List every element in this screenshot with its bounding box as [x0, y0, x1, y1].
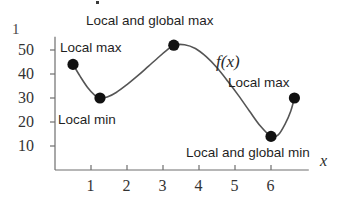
x-tick-label: 1: [87, 178, 95, 194]
annotation-local-and-global-max: Local and global max: [86, 14, 214, 28]
data-point-marker: [289, 92, 300, 103]
data-point-marker: [67, 59, 78, 70]
annotation-local-min: Local min: [58, 113, 116, 127]
x-tick-label: 6: [267, 178, 275, 194]
annotation-local-and-global-min: Local and global min: [186, 146, 310, 160]
y-tick-label: 20: [18, 114, 34, 130]
data-point-marker: [265, 131, 276, 142]
function-name-label: f(x): [216, 53, 240, 70]
x-tick-label: 3: [159, 178, 167, 194]
x-axis-name-label: x: [320, 153, 327, 169]
y-tick-label: 50: [18, 42, 34, 58]
plot-canvas: [0, 0, 348, 202]
x-tick-label: 2: [123, 178, 131, 194]
x-tick-label: 4: [195, 178, 203, 194]
y-tick-label: 30: [18, 90, 34, 106]
data-point-marker: [94, 92, 105, 103]
y-tick-label: 10: [18, 138, 34, 154]
annotation-local-max-right: Local max: [228, 76, 290, 90]
annotation-local-max-left: Local max: [60, 41, 122, 55]
function-extrema-chart: 1 123456 1020304050 Local and global max…: [0, 0, 348, 202]
data-point-marker: [168, 40, 179, 51]
y-tick-label: 40: [18, 66, 34, 82]
x-tick-label: 5: [231, 178, 239, 194]
